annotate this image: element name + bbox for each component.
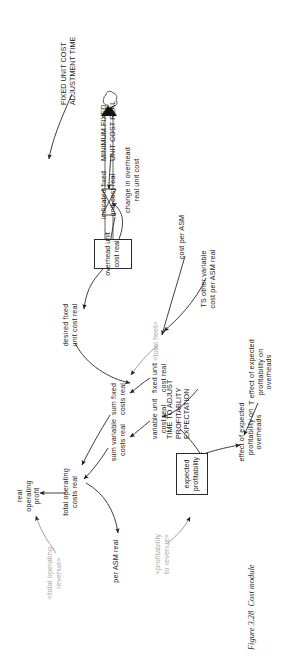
diagram-links-layer (0, 0, 283, 661)
figure-caption-wrapper: Figure 3.28 Cost module (247, 470, 261, 650)
link-profitability-to-revenue-to-expected-profitability (168, 517, 190, 543)
stock-expected-profitability[interactable]: expected profitability (176, 453, 208, 495)
constant-time-to-adjust-profitablity-expectation[interactable]: TIME TO ADJUST PROFITABLITY EXPECTATION (166, 373, 192, 439)
constant-minimum-fixed-unit-cost-real[interactable]: MINIMUM FIXED UNIT COST REAL (100, 103, 117, 161)
link-expected-profitability-to-effect-on-overheads (206, 445, 240, 453)
link-overhead-unit-cost-to-desired-fixed-unit-cost (84, 269, 103, 309)
variable-t-effect-of-expected-profitability-on-overheads[interactable]: T effect of expected profitability on ov… (248, 337, 274, 407)
variable-sum-variable-costs-real[interactable]: sum variable costs real (110, 415, 127, 465)
book-page: overhead unit cost real expected profita… (0, 0, 283, 661)
shadow-variable-total-operating-revenue[interactable]: <total operating revenue> (46, 545, 63, 601)
shadow-variable-total-fleet[interactable]: <total fleet> (152, 321, 161, 361)
variable-cost-per-asm[interactable]: cost per ASM (178, 213, 187, 261)
link-cost-per-asm-to-variable-unit-cost (162, 256, 185, 335)
variable-desired-fixed-unit-cost-real[interactable]: desired fixed unit cost real (62, 301, 79, 349)
variable-indicated-fixed-unit-cost-real[interactable]: indicated fixed unit cost real (100, 169, 117, 221)
variable-real-operating-profit[interactable]: real operating profit (16, 473, 42, 519)
figure-caption: Figure 3.28 Cost module (247, 470, 256, 650)
variable-per-asm-real[interactable]: per ASM real (112, 534, 121, 588)
flow-label-change-in-overhead-real-unit-cost[interactable]: change in overhead real unit cost (124, 145, 141, 215)
shadow-variable-profitability-to-revenue[interactable]: <profitability to revenue> (154, 531, 171, 577)
variable-total-operating-costs-real[interactable]: total operating costs real (62, 463, 79, 521)
cost-module-diagram: overhead unit cost real expected profita… (0, 0, 283, 661)
link-sum-fixed-costs-to-total-operating-costs (82, 415, 110, 465)
variable-effect-of-expected-profitability-on-overheads[interactable]: effect of expected profitability on over… (238, 401, 264, 463)
variable-ts-other-variable-cost-per-asm-real[interactable]: TS other variable cost per ASM real (200, 249, 217, 309)
link-fixed-unit-cost-to-sum-fixed-costs (130, 378, 150, 393)
figure-rotation-wrapper: overhead unit cost real expected profita… (0, 0, 283, 661)
link-sum-variable-costs-to-total-operating-costs (84, 448, 108, 479)
constant-fixed-unit-cost-adjustment-time[interactable]: FIXED UNIT COST ADJUSTMENT TIME (60, 43, 77, 105)
stock-overhead-unit-cost-real[interactable]: overhead unit cost real (94, 239, 132, 269)
variable-sum-fixed-costs-real[interactable]: sum fixed costs real (110, 377, 127, 421)
link-total-operating-costs-to-per-asm-real (86, 483, 118, 533)
link-variable-unit-cost-to-sum-variable-costs (130, 421, 150, 437)
